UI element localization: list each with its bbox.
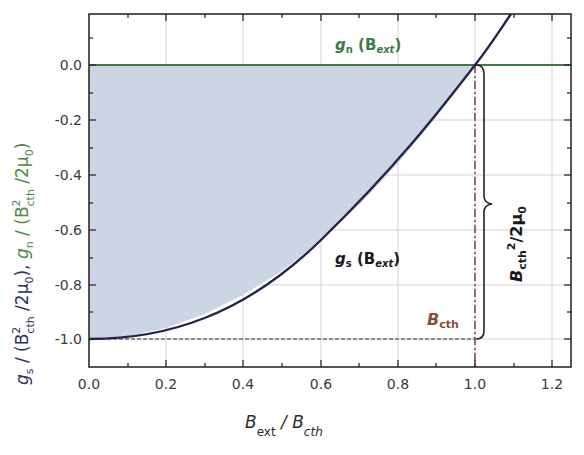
x-tick-label: 1.2: [541, 376, 563, 392]
bcth-annotation: Bcth: [427, 310, 459, 331]
gn-annotation: gn (Bext): [335, 36, 401, 55]
x-tick-label: 0.4: [232, 376, 254, 392]
y-tick-labels: 0.0 -0.2 -0.4 -0.6 -0.8 -1.0: [55, 57, 82, 347]
shaded-region: [89, 65, 475, 339]
brace: [476, 65, 492, 339]
brace-annotation: Bcth2/2μ0: [505, 206, 529, 282]
x-tick-label: 0.8: [387, 376, 409, 392]
y-tick-label: 0.0: [60, 57, 82, 73]
x-tick-label: 0.6: [310, 376, 332, 392]
chart: 0.0 0.2 0.4 0.6 0.8 1.0 1.2 0.0 -0.2 -0.…: [0, 0, 584, 455]
y-tick-label: -0.2: [55, 112, 82, 128]
x-tick-labels: 0.0 0.2 0.4 0.6 0.8 1.0 1.2: [78, 376, 563, 392]
x-tick-label: 0.0: [78, 376, 100, 392]
gs-annotation: gs (Bext): [335, 250, 400, 269]
y-tick-label: -0.8: [55, 277, 82, 293]
y-axis-label: gs / (B2cth /2μ0), gn / (B2cth /2μ0): [10, 143, 37, 385]
x-tick-label: 1.0: [464, 376, 486, 392]
x-tick-label: 0.2: [155, 376, 177, 392]
y-tick-label: -1.0: [55, 331, 82, 347]
x-axis-label: Bext / Bcth: [245, 412, 323, 439]
y-tick-label: -0.6: [55, 222, 82, 238]
y-tick-label: -0.4: [55, 167, 82, 183]
